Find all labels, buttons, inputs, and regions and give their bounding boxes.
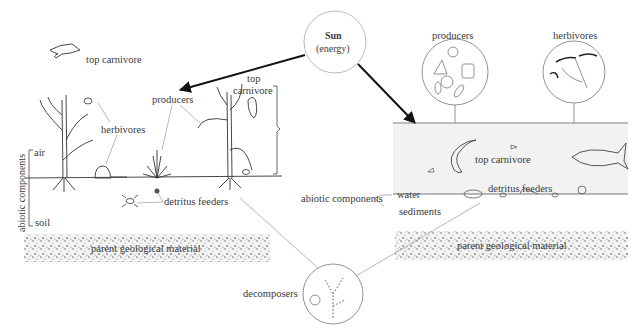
grass-producer-icon — [143, 150, 171, 178]
insect-icon — [122, 195, 138, 207]
abiotic-bracket-left — [29, 150, 33, 226]
energy-arrow-aquatic — [358, 64, 415, 123]
aquatic-abiotic-label: abiotic components — [301, 194, 383, 205]
terrestrial-producers-label: producers — [152, 95, 193, 106]
decomposers-label: decomposers — [243, 289, 298, 300]
soil-label: soil — [35, 218, 50, 229]
terrestrial-parent-material-label: parent geological material — [91, 244, 201, 255]
terrestrial-detritus-label: detritus feeders — [164, 197, 228, 208]
sun-title: Sun — [325, 31, 342, 41]
bird-label: top carnivore — [86, 55, 142, 66]
zooplankton-circle — [543, 41, 605, 123]
snail-ground-icon — [243, 170, 250, 175]
community-bracket — [273, 86, 280, 174]
mouse-icon — [95, 166, 127, 178]
aquatic-top-carnivore-label: top carnivore — [475, 155, 531, 166]
terrestrial-abiotic-label: abiotic components — [17, 154, 27, 232]
aquatic-parent-material-label: parent geological material — [457, 241, 567, 252]
air-label: air — [34, 148, 45, 159]
snail-icon — [84, 98, 92, 104]
water-label: water — [397, 190, 420, 201]
sediments-label: sediments — [399, 207, 441, 218]
terrestrial-carnivore-label: carnivore — [233, 86, 273, 97]
decomposers-circle — [303, 264, 363, 324]
detritus-feeder-icon — [155, 189, 160, 194]
aquatic-herbivores-label: herbivores — [553, 31, 597, 42]
sun-circle — [304, 11, 366, 73]
aquatic-detritus-label: detritus feeders — [488, 184, 552, 195]
aquatic-producers-label: producers — [432, 31, 473, 42]
sun-subtitle: (energy) — [316, 44, 350, 54]
terrestrial-top-label: top — [247, 74, 260, 85]
perched-bird-icon — [248, 97, 257, 118]
terrestrial-herbivores-label: herbivores — [101, 125, 145, 136]
bird-icon — [50, 44, 80, 58]
phytoplankton-circle — [422, 39, 488, 123]
